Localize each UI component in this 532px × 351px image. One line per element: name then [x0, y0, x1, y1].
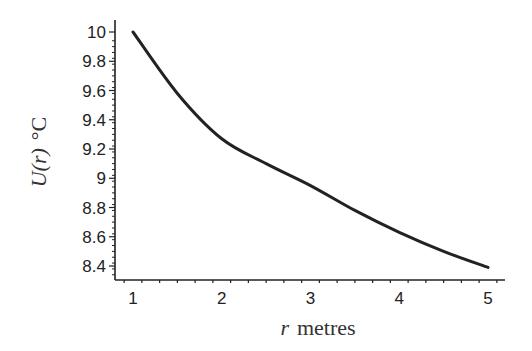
y-tick-label: 9.8 — [82, 52, 106, 71]
y-tick-label: 10 — [87, 23, 106, 42]
y-tick-label: 9 — [97, 169, 106, 188]
y-tick-label: 9.6 — [82, 82, 106, 101]
x-axis-title: rmetres — [280, 315, 355, 340]
data-line — [133, 32, 488, 267]
y-tick-label: 8.6 — [82, 228, 106, 247]
x-tick-label: 3 — [306, 289, 315, 308]
y-tick-label: 9.2 — [82, 140, 106, 159]
x-tick-label: 5 — [483, 289, 492, 308]
x-tick-label: 1 — [128, 289, 137, 308]
y-axis-title: U(r)°C — [26, 117, 51, 188]
line-chart: 123458.48.68.899.29.49.69.810 rmetres U(… — [0, 0, 532, 351]
ticks: 123458.48.68.899.29.49.69.810 — [82, 23, 497, 308]
y-tick-label: 8.8 — [82, 199, 106, 218]
x-tick-label: 2 — [217, 289, 226, 308]
y-tick-label: 9.4 — [82, 111, 106, 130]
x-tick-label: 4 — [395, 289, 404, 308]
y-tick-label: 8.4 — [82, 257, 106, 276]
axes — [115, 20, 505, 280]
